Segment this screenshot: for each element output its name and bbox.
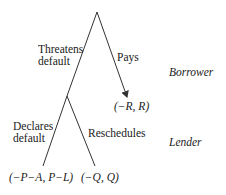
payoff-reschedules: (−Q, Q)	[81, 171, 119, 183]
default-text-2: default	[13, 132, 53, 144]
payoff-pays: (−R, R)	[114, 100, 149, 112]
default-text: default	[38, 55, 83, 67]
threatens-text: Threatens	[38, 43, 83, 55]
game-tree-diagram: Threatens default Pays Borrower (−R, R) …	[0, 0, 226, 195]
payoff-declares-default: (−P−A, P−L)	[9, 171, 73, 183]
tree-edges	[0, 0, 226, 195]
player-borrower-label: Borrower	[169, 66, 213, 78]
action-declares-label: Declares default	[13, 120, 53, 144]
player-lender-label: Lender	[169, 136, 202, 148]
action-pays-label: Pays	[117, 51, 139, 63]
action-reschedules-label: Reschedules	[88, 127, 145, 139]
action-threatens-label: Threatens default	[38, 43, 83, 67]
declares-text: Declares	[13, 120, 53, 132]
